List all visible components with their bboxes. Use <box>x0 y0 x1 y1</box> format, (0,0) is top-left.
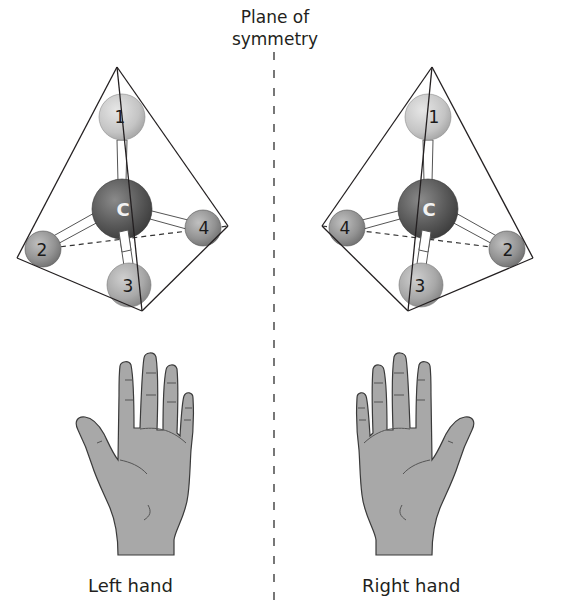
left-hand-label: Left hand <box>88 575 173 596</box>
chirality-diagram: 1 2 3 4 C 1 2 3 4 C <box>0 0 570 610</box>
right-hand-label: Right hand <box>362 575 460 596</box>
left-molecule: 1 2 3 4 C <box>17 67 228 311</box>
atom-1-label: 1 <box>115 107 126 127</box>
atom-2-label: 2 <box>503 240 514 260</box>
left-hand-illustration <box>76 353 193 555</box>
atom-3-label: 3 <box>415 276 426 296</box>
right-molecule: 1 2 3 4 C <box>322 67 533 311</box>
carbon-label: C <box>422 199 435 220</box>
atom-4-label: 4 <box>199 218 210 238</box>
atom-1-label: 1 <box>429 107 440 127</box>
carbon-label: C <box>116 199 129 220</box>
atom-3-label: 3 <box>123 276 134 296</box>
atom-4-label: 4 <box>340 218 351 238</box>
atom-2-label: 2 <box>37 240 48 260</box>
right-hand-illustration <box>357 353 474 555</box>
